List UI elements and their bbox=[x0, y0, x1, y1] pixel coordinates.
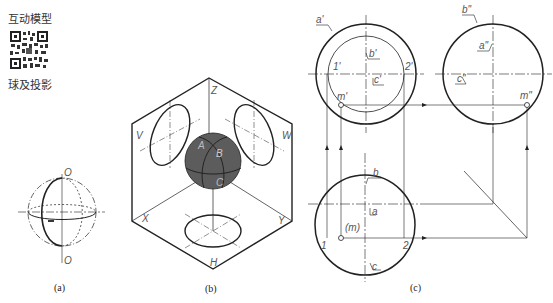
label-o-top: O bbox=[64, 167, 72, 178]
label-b-double-prime: b" bbox=[462, 4, 472, 15]
label-2-prime: 2' bbox=[404, 61, 414, 72]
caption-c: (c) bbox=[410, 282, 421, 294]
label-point-c: C bbox=[216, 177, 224, 188]
figure-a-sphere bbox=[18, 174, 105, 263]
label-m-hidden: (m) bbox=[345, 222, 360, 233]
label-b-prime: b' bbox=[369, 48, 378, 59]
caption-b: (b) bbox=[205, 283, 217, 295]
label-m-prime: m' bbox=[337, 91, 348, 102]
caption-a: (a) bbox=[54, 282, 65, 294]
label-a: a bbox=[372, 206, 378, 217]
label-o-bottom: O bbox=[64, 255, 72, 266]
label-m-double-prime: m" bbox=[520, 90, 532, 101]
label-h: H bbox=[210, 257, 218, 268]
label-z: Z bbox=[210, 85, 218, 96]
label-b: b bbox=[373, 167, 379, 178]
figure-b-sphere bbox=[185, 133, 241, 189]
label-w: W bbox=[282, 130, 293, 141]
label-point-a: A bbox=[197, 140, 205, 151]
label-c-prime: c' bbox=[374, 74, 382, 85]
figure-c-views bbox=[308, 15, 552, 282]
label-point-b: B bbox=[216, 148, 223, 159]
label-2: 2 bbox=[402, 240, 409, 251]
label-a-double-prime: a" bbox=[479, 40, 489, 51]
label-1: 1 bbox=[321, 240, 327, 251]
label-1-prime: 1' bbox=[333, 61, 342, 72]
label-x: X bbox=[141, 213, 149, 224]
label-v: V bbox=[136, 130, 144, 141]
label-c-double-prime: c" bbox=[457, 73, 466, 84]
label-a-prime: a' bbox=[316, 14, 325, 25]
label-c: c bbox=[372, 261, 377, 272]
